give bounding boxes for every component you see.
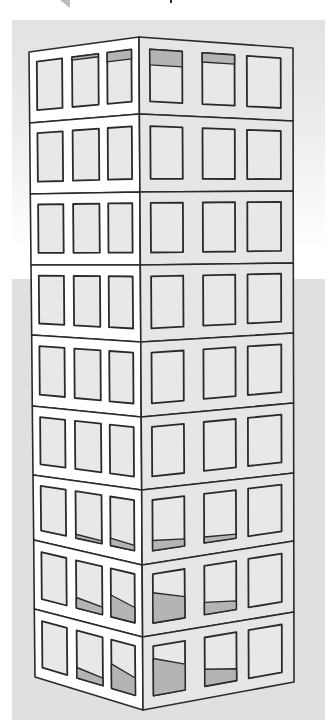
window-right-floor-3-1 [151,203,183,253]
window-left-floor-2-1 [37,131,63,181]
window-right-floor-6-1 [152,424,184,477]
window-right-floor-1-3 [247,56,281,108]
window-right-floor-6-3 [248,415,282,466]
window-left-floor-2-2 [73,129,100,181]
window-left-floor-1-1 [37,58,63,110]
window-left-floor-3-2 [73,204,100,253]
window-left-floor-3-3 [108,203,132,253]
window-right-floor-7-3 [248,485,282,537]
window-left-floor-3-1 [38,204,64,253]
window-right-floor-3-3 [247,202,281,251]
window-left-floor-4-1 [39,276,65,325]
tower-building [0,0,329,724]
window-left-floor-6-1 [40,417,65,467]
window-right-floor-5-3 [248,344,282,395]
window-right-floor-4-2 [203,275,235,326]
window-left-floor-9-1 [42,621,67,675]
window-shadow-right-floor-1-2 [202,53,234,64]
window-right-floor-4-3 [248,274,282,324]
window-left-floor-6-3 [110,425,134,477]
window-left-floor-8-1 [41,552,66,605]
window-shadow-right-floor-1-1 [150,49,182,67]
window-left-floor-6-2 [75,421,102,472]
window-right-floor-2-1 [150,126,183,179]
window-left-floor-4-2 [74,276,101,327]
window-right-floor-6-2 [204,419,236,471]
window-left-floor-4-3 [109,276,133,328]
window-left-floor-5-1 [39,346,65,397]
window-shadow-right-floor-9-1 [153,659,185,696]
window-left-floor-2-3 [108,126,132,179]
window-left-floor-1-2 [72,54,99,107]
window-right-floor-9-3 [249,625,282,679]
window-left-floor-5-3 [109,351,133,404]
window-right-floor-5-1 [152,351,184,404]
illustration-canvas [0,0,329,724]
window-right-floor-3-2 [203,202,235,252]
window-right-floor-2-2 [203,128,235,179]
window-right-floor-8-3 [248,554,281,608]
window-shadow-right-floor-8-1 [153,593,185,623]
window-left-floor-5-2 [74,349,101,401]
window-right-floor-4-1 [151,276,183,329]
window-right-floor-5-2 [203,347,235,399]
window-right-floor-2-3 [247,130,281,179]
window-left-floor-7-1 [41,486,66,536]
